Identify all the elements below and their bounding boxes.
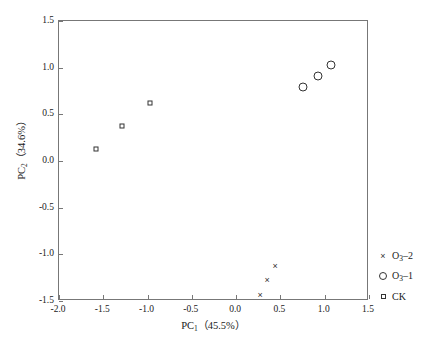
plot-frame: ×××: [58, 20, 368, 300]
y-tick-label: 1.5: [20, 15, 54, 25]
cross-marker: ×: [263, 276, 271, 284]
y-tick-mark: [59, 208, 63, 209]
cross-marker: ×: [271, 262, 279, 270]
x-tick-mark: [369, 295, 370, 299]
y-tick-mark: [59, 254, 63, 255]
pca-scatter-figure: ××× -1.5-1.0-0.50.00.51.01.5 -2.0-1.5-1.…: [0, 0, 435, 352]
x-tick-mark: [280, 295, 281, 299]
y-tick-mark: [59, 68, 63, 69]
circle-marker: [313, 72, 322, 81]
plot-area: ×××: [59, 21, 367, 299]
x-tick-mark: [192, 295, 193, 299]
legend-symbol-circle-icon: [378, 271, 388, 281]
x-tick-mark: [325, 295, 326, 299]
y-tick-label: -1.0: [20, 248, 54, 258]
circle-marker: [326, 60, 335, 69]
cross-marker: ×: [379, 252, 387, 260]
square-marker: [119, 124, 124, 129]
legend-label: O3–2: [392, 250, 413, 263]
x-tick-label: -1.5: [82, 304, 122, 314]
x-tick-mark: [103, 295, 104, 299]
square-marker: [381, 294, 386, 299]
y-tick-mark: [59, 161, 63, 162]
legend-symbol-square-icon: [378, 291, 388, 301]
legend-item[interactable]: ×O3–2: [378, 246, 435, 266]
y-axis-label-prefix: PC: [16, 167, 27, 180]
x-tick-mark: [148, 295, 149, 299]
x-tick-mark: [236, 295, 237, 299]
x-tick-label: 1.0: [304, 304, 344, 314]
legend-label: CK: [392, 291, 406, 302]
y-tick-mark: [59, 114, 63, 115]
x-tick-label: -0.5: [171, 304, 211, 314]
square-marker: [94, 146, 99, 151]
square-marker: [148, 101, 153, 106]
y-axis-label-suffix: （34.6%）: [16, 116, 27, 163]
x-tick-label: -2.0: [38, 304, 78, 314]
x-axis-label-suffix: （45.5%）: [198, 320, 245, 331]
legend: ×O3–2O3–1CK: [378, 246, 435, 306]
y-tick-mark: [59, 301, 63, 302]
legend-label: O3–1: [392, 270, 413, 283]
cross-marker: ×: [256, 291, 264, 299]
x-tick-label: -1.0: [127, 304, 167, 314]
x-axis-label: PC1（45.5%）: [58, 317, 368, 333]
y-tick-label: 1.0: [20, 62, 54, 72]
y-axis-label: PC2（34.6%）: [13, 83, 29, 213]
y-tick-mark: [59, 21, 63, 22]
x-axis-label-prefix: PC: [181, 320, 194, 331]
circle-marker: [379, 272, 387, 280]
circle-marker: [299, 83, 308, 92]
x-tick-label: 0.0: [215, 304, 255, 314]
legend-symbol-cross-icon: ×: [378, 251, 388, 261]
x-tick-mark: [59, 295, 60, 299]
legend-item[interactable]: CK: [378, 286, 435, 306]
y-axis-label-subscript: 2: [20, 163, 29, 167]
legend-item[interactable]: O3–1: [378, 266, 435, 286]
x-tick-label: 0.5: [259, 304, 299, 314]
